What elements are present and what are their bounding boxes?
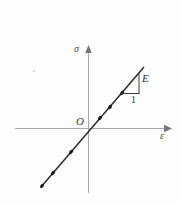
stress-strain-line — [41, 67, 144, 187]
y-axis-label: σ — [74, 44, 79, 54]
origin-label: O — [76, 116, 84, 127]
plot-canvas — [0, 0, 181, 205]
stress-strain-figure: σ ε O E 1 — [0, 0, 181, 205]
run-label-1: 1 — [131, 95, 136, 105]
x-axis-arrowhead — [164, 125, 172, 132]
slope-label-E: E — [142, 73, 149, 84]
y-axis-arrowhead — [85, 45, 92, 53]
scan-speck — [33, 70, 35, 72]
x-axis-label: ε — [160, 131, 164, 141]
